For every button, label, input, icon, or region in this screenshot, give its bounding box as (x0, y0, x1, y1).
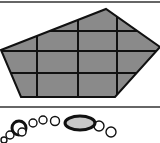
bead (1, 137, 7, 143)
bead (51, 117, 60, 126)
bead-necklace (1, 116, 116, 143)
gridded-pentagon (0, 0, 160, 110)
diagram-canvas (0, 0, 160, 143)
bead (39, 116, 47, 124)
oval-bead (65, 116, 95, 130)
bead (106, 127, 116, 137)
bead (18, 128, 26, 136)
pentagon-shape (1, 9, 160, 97)
bead (29, 119, 37, 127)
